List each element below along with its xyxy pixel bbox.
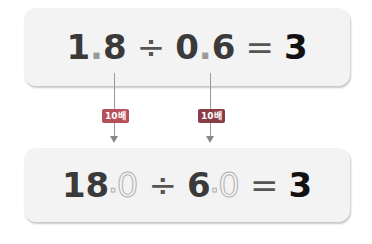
badge-10x-left: 10배 [102,109,129,123]
badge-10x-right: 10배 [198,109,225,123]
digit: 6 [212,27,236,67]
arrow-head-right-icon [206,136,214,143]
number: 6 [187,165,211,205]
ghost-zero: 0 [218,165,240,205]
equals-sign: = [245,27,274,67]
ghost-decimal-point: . [109,173,117,197]
decimal-point: . [90,27,103,67]
answer: 3 [288,165,312,205]
answer: 3 [284,27,308,67]
digit: 1 [66,27,90,67]
ghost-zero: 0 [117,165,139,205]
ghost-decimal-point: . [211,173,219,197]
arrow-line-left [114,73,115,137]
equals-sign: = [250,165,279,205]
digit: 8 [103,27,127,67]
divide-sign: ÷ [137,27,166,67]
bottom-equation-box: 18.0 ÷ 6.0 = 3 [24,148,350,222]
decimal-point: . [199,27,212,67]
divide-sign: ÷ [148,165,177,205]
number: 18 [62,165,109,205]
digit: 0 [175,27,199,67]
arrow-head-left-icon [110,136,118,143]
bottom-equation: 18.0 ÷ 6.0 = 3 [24,148,350,222]
top-equation: 1.8 ÷ 0.6 = 3 [24,8,350,86]
arrow-line-right [210,73,211,137]
top-equation-box: 1.8 ÷ 0.6 = 3 [24,8,350,86]
